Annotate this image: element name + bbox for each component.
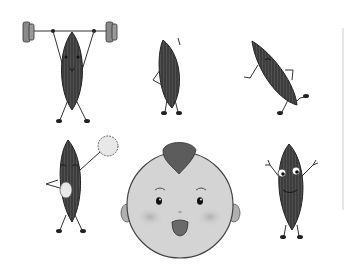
pompom-icon [98,136,118,156]
seed-cheerleader [46,136,118,233]
seed-arms-up [265,144,318,239]
seed-running [244,41,309,115]
pompom-icon [60,182,72,198]
seed-weightlifter [23,22,117,123]
illustration [0,0,345,265]
baby-face [121,143,240,259]
seed-hand-on-hip [153,38,182,115]
